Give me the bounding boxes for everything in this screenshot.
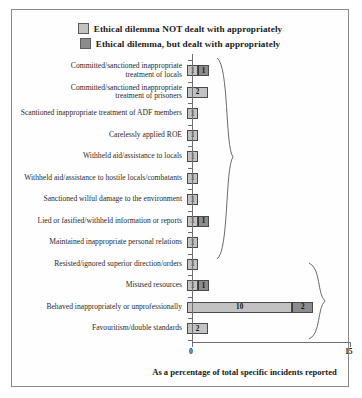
x-axis-title: As a percentage of total specific incide…: [132, 367, 357, 377]
bar-row: Lied or fasified/withheld information or…: [12, 211, 350, 233]
bar-row: Committed/sanctioned inappropriate treat…: [12, 82, 350, 104]
y-axis-tick: [188, 232, 193, 233]
bar-row: Favouritism/double standards2: [12, 318, 350, 340]
bar-row: Maintained inappropriate personal relati…: [12, 232, 350, 254]
category-label: Withheld aid/assistance to locals: [12, 152, 187, 161]
bar-segment-dealt: 1: [198, 65, 209, 76]
y-axis-tick: [188, 189, 193, 190]
y-axis-tick: [188, 254, 193, 255]
x-tick-label-15: 15: [345, 347, 353, 356]
y-axis-tick: [188, 297, 193, 298]
bar-stack: 11: [187, 211, 350, 233]
y-axis-tick: [188, 168, 193, 169]
chart-frame: Ethical dilemma NOT dealt with appropria…: [11, 9, 349, 387]
category-label: Resisted/ignored superior direction/orde…: [12, 260, 187, 269]
category-label: Committed/sanctioned inappropriate treat…: [12, 84, 187, 101]
y-axis-tick: [188, 60, 193, 61]
chart-legend: Ethical dilemma NOT dealt with appropria…: [12, 21, 348, 51]
bar-stack: 1: [187, 232, 350, 254]
y-axis-tick: [188, 340, 193, 341]
y-axis-tick: [188, 82, 193, 83]
bar-stack: 2: [187, 82, 350, 104]
bar-stack: 1: [187, 146, 350, 168]
bar-row: Behaved inappropriately or unprofessiona…: [12, 297, 350, 319]
y-axis-tick: [188, 146, 193, 147]
y-axis-tick: [188, 103, 193, 104]
category-label: Carelessly applied ROE: [12, 131, 187, 140]
legend-label-dealt: Ethical dilemma, but dealt with appropri…: [96, 39, 281, 49]
category-label: Behaved inappropriately or unprofessiona…: [12, 303, 187, 312]
brace-lower-group: [307, 261, 329, 341]
bar-row: Misused resources11: [12, 275, 350, 297]
bar-stack: 1: [187, 125, 350, 147]
bar-row: Withheld aid/assistance to locals1: [12, 146, 350, 168]
bar-stack: 11: [187, 60, 350, 82]
category-label: Maintained inappropriate personal relati…: [12, 238, 187, 247]
category-label: Favouritism/double standards: [12, 324, 187, 333]
y-axis-tick: [188, 275, 193, 276]
category-label: Withheld aid/assistance to hostile local…: [12, 174, 187, 183]
category-label: Lied or fasified/withheld information or…: [12, 217, 187, 226]
bar-stack: 1: [187, 168, 350, 190]
y-axis: [192, 54, 193, 343]
bar-row: Resisted/ignored superior direction/orde…: [12, 254, 350, 276]
legend-item-not-dealt: Ethical dilemma NOT dealt with appropria…: [12, 21, 348, 36]
bar-row: Scantioned inappropriate treatment of AD…: [12, 103, 350, 125]
bar-segment-not-dealt: 10: [187, 302, 292, 313]
bar-row: Committed/sanctioned inappropriate treat…: [12, 60, 350, 82]
legend-swatch-dealt: [80, 38, 91, 49]
brace-upper-group: [215, 56, 237, 261]
category-label: Scantioned inappropriate treatment of AD…: [12, 109, 187, 118]
y-axis-tick: [188, 211, 193, 212]
category-label: Misused resources: [12, 281, 187, 290]
bar-row: Sanctioned wilful damage to the environm…: [12, 189, 350, 211]
bar-row: Withheld aid/assistance to hostile local…: [12, 168, 350, 190]
bar-stack: 1: [187, 189, 350, 211]
y-axis-tick: [188, 125, 193, 126]
legend-label-not-dealt: Ethical dilemma NOT dealt with appropria…: [94, 24, 283, 34]
category-label: Sanctioned wilful damage to the environm…: [12, 195, 187, 204]
bar-segment-not-dealt: 2: [187, 323, 208, 334]
bar-segment-not-dealt: 2: [187, 87, 208, 98]
category-label: Committed/sanctioned inappropriate treat…: [12, 62, 187, 79]
x-axis: [192, 342, 350, 343]
legend-item-dealt: Ethical dilemma, but dealt with appropri…: [12, 36, 348, 51]
x-tick-label-0: 0: [189, 347, 193, 356]
plot-area: Committed/sanctioned inappropriate treat…: [12, 54, 350, 354]
bar-segment-dealt: 1: [198, 216, 209, 227]
legend-swatch-not-dealt: [78, 23, 89, 34]
bar-stack: 1: [187, 103, 350, 125]
bar-row: Carelessly applied ROE1: [12, 125, 350, 147]
y-axis-tick: [188, 318, 193, 319]
bar-segment-dealt: 1: [198, 280, 209, 291]
